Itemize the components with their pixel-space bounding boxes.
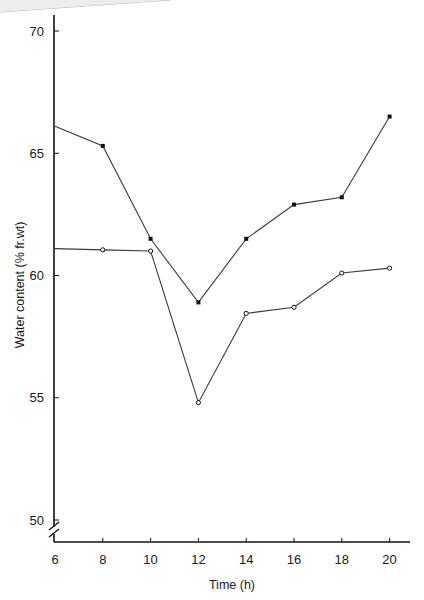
data-point-marker bbox=[292, 203, 296, 207]
data-point-marker bbox=[292, 305, 296, 309]
data-point-marker bbox=[149, 249, 153, 253]
data-point-marker bbox=[388, 115, 392, 119]
x-axis-title: Time (h) bbox=[209, 578, 255, 592]
data-point-marker bbox=[101, 248, 105, 252]
x-tick-label: 18 bbox=[335, 552, 349, 567]
data-point-marker bbox=[244, 311, 248, 315]
data-point-marker bbox=[149, 237, 153, 241]
data-point-marker bbox=[340, 271, 344, 275]
page-edge-shadow bbox=[0, 0, 170, 12]
series-filled bbox=[55, 115, 392, 305]
data-point-marker bbox=[196, 401, 200, 405]
data-point-marker bbox=[388, 266, 392, 270]
x-tick-label: 16 bbox=[287, 552, 301, 567]
data-point-marker bbox=[101, 144, 105, 148]
data-point-marker bbox=[196, 300, 200, 304]
series-line bbox=[55, 249, 390, 403]
data-series bbox=[55, 115, 392, 405]
data-point-marker bbox=[244, 237, 248, 241]
y-tick-label: 70 bbox=[30, 24, 44, 39]
series-open bbox=[55, 248, 392, 405]
x-tick-label: 8 bbox=[99, 552, 106, 567]
y-tick-label: 65 bbox=[30, 146, 44, 161]
chart: 505560657068101214161820 Time (h) Water … bbox=[0, 0, 424, 600]
y-axis-title: Water content (% fr.wt) bbox=[13, 222, 27, 349]
x-tick-label: 6 bbox=[51, 552, 58, 567]
x-tick-label: 12 bbox=[191, 552, 205, 567]
y-tick-label: 55 bbox=[30, 390, 44, 405]
x-tick-label: 14 bbox=[239, 552, 253, 567]
data-point-marker bbox=[340, 195, 344, 199]
y-tick-label: 60 bbox=[30, 268, 44, 283]
x-tick-label: 10 bbox=[143, 552, 157, 567]
axes: 505560657068101214161820 bbox=[30, 15, 410, 567]
y-tick-label: 50 bbox=[30, 513, 44, 528]
x-tick-label: 20 bbox=[382, 552, 396, 567]
